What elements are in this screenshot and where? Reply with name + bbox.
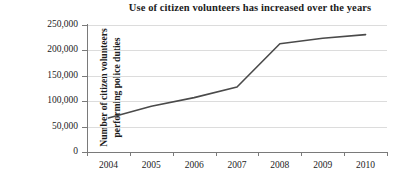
x-axis-tick-label: 2007 [215, 160, 259, 170]
series-line-citizen-volunteers [108, 35, 365, 118]
y-axis-tick-label-wrap: 0 [10, 146, 78, 157]
x-axis-tick-label: 2010 [344, 160, 388, 170]
x-axis-tick [130, 152, 131, 156]
y-axis-tick-label-wrap: 200,000 [10, 44, 78, 55]
x-axis-tick-label: 2005 [129, 160, 173, 170]
y-axis-tick [82, 76, 87, 77]
x-axis-tick [173, 152, 174, 156]
chart-container: Use of citizen volunteers has increased … [0, 0, 406, 191]
y-axis-tick [82, 101, 87, 102]
y-axis-tick-label: 250,000 [14, 19, 78, 29]
y-axis-tick [82, 50, 87, 51]
x-axis-tick-label: 2008 [258, 160, 302, 170]
y-axis-tick [82, 127, 87, 128]
x-axis-tick-label: 2004 [86, 160, 130, 170]
y-axis-tick-label-wrap: 250,000 [10, 19, 78, 30]
x-axis-tick [216, 152, 217, 156]
y-axis-tick-label-wrap: 150,000 [10, 70, 78, 81]
x-axis-tick [387, 152, 388, 156]
y-axis-tick-label: 0 [14, 146, 78, 156]
y-axis-tick-label-wrap: 50,000 [10, 121, 78, 132]
x-axis-tick-label: 2006 [172, 160, 216, 170]
y-axis-tick-label-wrap: 100,000 [10, 95, 78, 106]
x-axis-tick [301, 152, 302, 156]
y-axis-tick-label: 150,000 [14, 70, 78, 80]
y-axis-tick-label: 50,000 [14, 121, 78, 131]
y-axis-tick-label: 100,000 [14, 95, 78, 105]
y-axis-tick [82, 25, 87, 26]
x-axis-tick-label: 2009 [301, 160, 345, 170]
y-axis-tick-label: 200,000 [14, 44, 78, 54]
x-axis-tick [258, 152, 259, 156]
x-axis-tick [87, 152, 88, 156]
x-axis-tick [344, 152, 345, 156]
